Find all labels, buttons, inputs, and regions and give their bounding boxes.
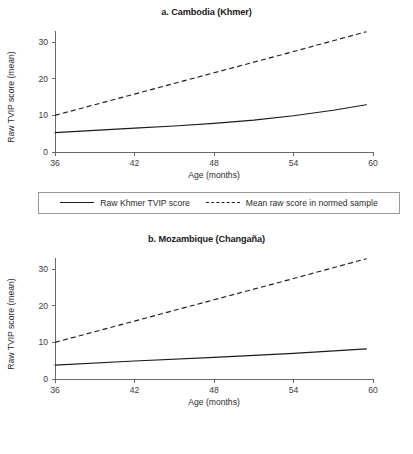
panel-cambodia: a. Cambodia (Khmer) 01020303642485460Age… xyxy=(0,0,413,227)
x-tick-label: 36 xyxy=(50,158,60,168)
y-tick-label: 30 xyxy=(38,37,48,47)
x-tick-label: 48 xyxy=(209,385,219,395)
solid-line-swatch-icon xyxy=(60,202,94,204)
x-tick-label: 36 xyxy=(50,385,60,395)
legend-entry-solid-a: Raw Khmer TVIP score xyxy=(60,199,189,208)
y-tick-label: 10 xyxy=(38,337,48,347)
x-axis-title: Age (months) xyxy=(188,170,240,180)
y-axis-title: Raw TVIP score (mean) xyxy=(6,51,16,143)
x-axis-title: Age (months) xyxy=(188,397,240,407)
panel-mozambique: b. Mozambique (Changaña) 010203036424854… xyxy=(0,227,413,454)
y-tick-label: 30 xyxy=(38,264,48,274)
x-tick-label: 54 xyxy=(289,158,299,168)
y-tick-label: 20 xyxy=(38,301,48,311)
y-tick-label: 0 xyxy=(43,374,48,384)
x-tick-label: 54 xyxy=(289,385,299,395)
series-line-solid xyxy=(55,105,366,133)
y-axis-title: Raw TVIP score (mean) xyxy=(6,278,16,370)
x-tick-label: 60 xyxy=(368,158,378,168)
x-tick-label: 42 xyxy=(130,158,140,168)
legend-label-solid-a: Raw Khmer TVIP score xyxy=(100,199,189,208)
legend-entry-dashed-a: Mean raw score in normed sample xyxy=(206,199,378,208)
series-line-dashed xyxy=(55,32,366,116)
y-tick-label: 10 xyxy=(38,110,48,120)
series-line-dashed xyxy=(55,259,366,343)
dashed-line-swatch-icon xyxy=(206,202,240,204)
series-line-solid xyxy=(55,349,366,365)
x-tick-label: 48 xyxy=(209,158,219,168)
panel-b-plot: 01020303642485460Age (months)Raw TVIP sc… xyxy=(0,227,413,454)
legend-label-dashed-a: Mean raw score in normed sample xyxy=(246,199,378,208)
x-tick-label: 42 xyxy=(130,385,140,395)
y-tick-label: 20 xyxy=(38,74,48,84)
x-tick-label: 60 xyxy=(368,385,378,395)
panel-a-legend: Raw Khmer TVIP score Mean raw score in n… xyxy=(38,192,400,214)
y-tick-label: 0 xyxy=(43,147,48,157)
figure-tvip-raw-scores: a. Cambodia (Khmer) 01020303642485460Age… xyxy=(0,0,413,454)
